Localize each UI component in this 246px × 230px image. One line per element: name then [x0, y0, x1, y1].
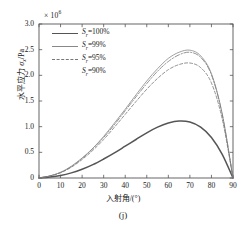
plot-canvas [0, 0, 246, 230]
legend-item: Sr=100% [52, 26, 110, 39]
legend-line-sample [52, 42, 78, 50]
legend-line-sample [52, 55, 78, 63]
legend: Sr=100% Sr=99% Sr=95% Sr=90% [52, 26, 110, 78]
legend-item: Sr=95% [52, 52, 110, 65]
legend-item: Sr=99% [52, 39, 110, 52]
legend-item-label: Sr=95% [82, 54, 106, 64]
series-line [39, 63, 233, 178]
legend-item-label: Sr=99% [82, 41, 106, 51]
legend-item-label: Sr=100% [82, 28, 110, 38]
legend-line-sample [52, 29, 78, 37]
legend-line-sample [52, 68, 78, 76]
legend-item: Sr=90% [52, 65, 110, 78]
figure-panel: × 106 水平应力 σx/Pa 入射角/(°) (j) 00.51.01.52… [0, 0, 246, 230]
legend-item-label: Sr=90% [82, 67, 106, 77]
